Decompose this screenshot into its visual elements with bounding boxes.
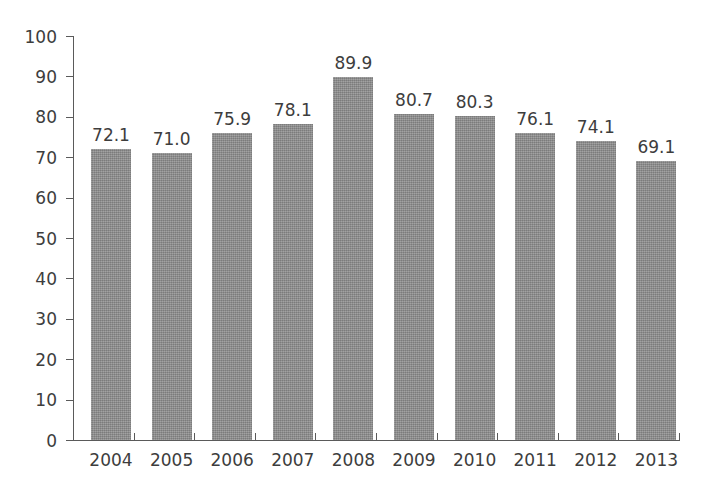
x-axis-tick-mark [315,433,316,441]
y-axis-tick-label: 20 [35,351,66,368]
x-axis-tick-mark [679,433,680,441]
bar-chart: 0102030405060708090100 72.171.075.978.18… [0,0,709,500]
bar-value-label: 69.1 [637,139,675,156]
y-axis-tick-label: 100 [25,28,66,45]
bar-value-label: 76.1 [516,111,554,128]
bar-value-label: 80.7 [395,92,433,109]
x-axis-tick-mark [134,433,135,441]
bar-value-label: 74.1 [577,119,615,136]
y-axis-tick-mark [66,117,74,118]
bar-value-label: 78.1 [274,102,312,119]
y-axis-tick: 60 [66,198,74,199]
x-axis-tick-mark [194,433,195,441]
y-axis-tick: 100 [66,36,74,37]
y-axis-tick-mark [66,319,74,320]
y-axis-tick-label: 50 [35,230,66,247]
x-axis-category-label: 2009 [384,452,444,469]
x-axis-category-label: 2010 [445,452,505,469]
y-axis-tick: 10 [66,400,74,401]
bar: 74.1 [576,141,616,440]
bar-value-label: 75.9 [213,111,251,128]
y-axis-tick: 50 [66,238,74,239]
bar-value-label: 80.3 [456,94,494,111]
x-axis-category-label: 2005 [142,452,202,469]
x-axis-category-label: 2004 [81,452,141,469]
x-axis-category-label: 2008 [323,452,383,469]
bar: 76.1 [515,133,555,440]
bar-value-label: 71.0 [153,131,191,148]
x-axis-tick-mark [255,433,256,441]
bar: 71.0 [152,153,192,440]
y-axis-tick-label: 60 [35,190,66,207]
x-axis-tick-mark [618,433,619,441]
y-axis-tick-label: 70 [35,149,66,166]
x-axis-category-label: 2011 [505,452,565,469]
y-axis-tick-mark [66,76,74,77]
x-axis-category-label: 2007 [263,452,323,469]
y-axis-tick: 90 [66,76,74,77]
y-axis-tick-label: 40 [35,270,66,287]
y-axis-tick: 40 [66,278,74,279]
bar: 75.9 [212,133,252,440]
y-axis-tick-mark [66,198,74,199]
bar: 89.9 [333,77,373,440]
y-axis-tick-label: 10 [35,392,66,409]
y-axis-tick-label: 30 [35,311,66,328]
y-axis-tick: 80 [66,117,74,118]
bar-value-label: 89.9 [334,55,372,72]
bar: 78.1 [273,124,313,440]
x-axis-tick-mark [73,433,74,441]
y-axis-tick: 20 [66,359,74,360]
y-axis-tick-label: 0 [46,432,66,449]
y-axis-tick-mark [66,36,74,37]
bar: 80.3 [455,116,495,440]
bar: 69.1 [636,161,676,440]
bar: 80.7 [394,114,434,440]
y-axis-tick-mark [66,238,74,239]
y-axis-tick: 30 [66,319,74,320]
y-axis-tick-mark [66,157,74,158]
bar: 72.1 [91,149,131,440]
y-axis-tick-mark [66,278,74,279]
x-axis-tick-mark [376,433,377,441]
y-axis-tick: 70 [66,157,74,158]
bar-value-label: 72.1 [92,127,130,144]
x-axis-tick-mark [558,433,559,441]
x-axis-tick-mark [437,433,438,441]
y-axis-tick-mark [66,400,74,401]
x-axis-category-label: 2012 [566,452,626,469]
x-axis-tick-mark [497,433,498,441]
y-axis-tick-label: 90 [35,68,66,85]
x-axis-category-label: 2013 [626,452,686,469]
x-axis-category-label: 2006 [202,452,262,469]
y-axis-tick-mark [66,359,74,360]
y-axis-tick-label: 80 [35,109,66,126]
